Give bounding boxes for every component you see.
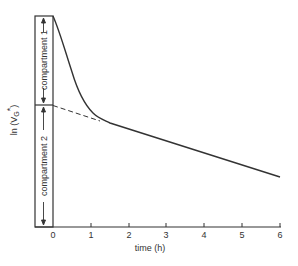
y-axis-label: ln (VG*) — [5, 105, 20, 135]
x-tick-1: 1 — [88, 230, 93, 240]
x-tick-3: 3 — [163, 230, 168, 240]
x-tick-0: 0 — [50, 230, 55, 240]
concentration-curve — [53, 16, 280, 177]
pharmacokinetic-chart: 0 1 2 3 4 5 6 time (h) ln (VG*) compartm… — [0, 0, 298, 266]
x-tick-labels: 0 1 2 3 4 5 6 — [50, 230, 282, 240]
compartment1-label: compartment 1 — [39, 30, 49, 90]
x-axis-label: time (h) — [135, 243, 166, 253]
x-tick-2: 2 — [126, 230, 131, 240]
x-tick-4: 4 — [201, 230, 206, 240]
x-tick-6: 6 — [277, 230, 282, 240]
x-tick-5: 5 — [239, 230, 244, 240]
compartment2-label: compartment 2 — [39, 136, 49, 196]
